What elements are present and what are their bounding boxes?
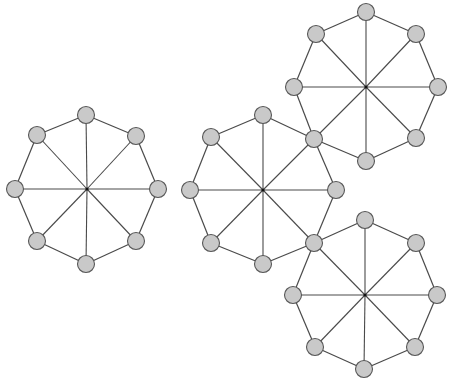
rim-node bbox=[255, 256, 272, 273]
rim-node bbox=[29, 127, 46, 144]
rim-node bbox=[408, 130, 425, 147]
rim-node bbox=[182, 182, 199, 199]
spoke-edge bbox=[366, 34, 416, 87]
rim-node bbox=[307, 339, 324, 356]
spoke-edge bbox=[263, 139, 314, 190]
rim-node bbox=[328, 182, 345, 199]
rim-node bbox=[356, 361, 373, 378]
spoke-edge bbox=[316, 34, 366, 87]
rim-node bbox=[429, 287, 446, 304]
spoke-edge bbox=[263, 190, 314, 243]
rim-node bbox=[408, 26, 425, 43]
spoke-edge bbox=[87, 189, 136, 241]
rim-node bbox=[255, 107, 272, 124]
spoke-edge bbox=[364, 295, 365, 369]
rim-node bbox=[7, 181, 24, 198]
rim-node bbox=[78, 107, 95, 124]
rim-node bbox=[358, 4, 375, 21]
rim-node bbox=[286, 79, 303, 96]
spoke-edge bbox=[314, 87, 366, 139]
spoke-edge bbox=[86, 189, 87, 264]
spoke-edge bbox=[86, 115, 87, 189]
rim-node bbox=[408, 235, 425, 252]
rim-node bbox=[78, 256, 95, 273]
rim-node bbox=[358, 153, 375, 170]
edges-layer bbox=[15, 12, 438, 369]
rim-node bbox=[203, 129, 220, 146]
rim-node bbox=[357, 212, 374, 229]
spoke-edge bbox=[211, 190, 263, 243]
spoke-edge bbox=[211, 137, 263, 190]
rim-node bbox=[29, 233, 46, 250]
spoke-edge bbox=[365, 295, 415, 347]
wheel-graph-diagram bbox=[0, 0, 450, 389]
shared-rim-node bbox=[306, 131, 323, 148]
spoke-edge bbox=[365, 243, 416, 295]
rim-node bbox=[128, 128, 145, 145]
rim-node bbox=[203, 235, 220, 252]
spoke-edge bbox=[87, 136, 136, 189]
hub-node bbox=[85, 187, 88, 190]
spoke-edge bbox=[37, 189, 87, 241]
spoke-edge bbox=[37, 135, 87, 189]
rim-node bbox=[407, 339, 424, 356]
rim-node bbox=[150, 181, 167, 198]
spoke-edge bbox=[366, 87, 416, 138]
spoke-edge bbox=[315, 295, 365, 347]
hub-node bbox=[364, 85, 367, 88]
rim-node bbox=[128, 233, 145, 250]
rim-node bbox=[430, 79, 447, 96]
rim-node bbox=[285, 287, 302, 304]
spoke-edge bbox=[314, 243, 365, 295]
hub-node bbox=[363, 293, 366, 296]
rim-node bbox=[308, 26, 325, 43]
shared-rim-node bbox=[306, 235, 323, 252]
hub-node bbox=[261, 188, 264, 191]
